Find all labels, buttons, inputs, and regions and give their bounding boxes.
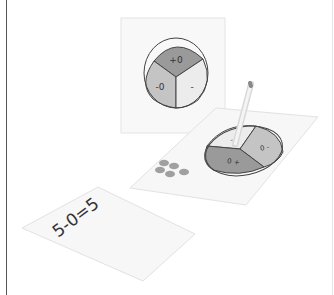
- top-spinner-label-minus-zero: -0: [156, 82, 165, 92]
- middle-spinner-label-zero-minus: 0 -: [259, 143, 270, 153]
- math-spinner-illustration: +0 -0 - - 0 - 0 +: [0, 0, 334, 295]
- top-spinner-label-minus: -: [190, 82, 193, 92]
- top-spinner-label-plus-zero: +0: [169, 55, 183, 65]
- bottom-card: 5-0=5: [22, 187, 195, 281]
- top-spinner: +0 -0 -: [144, 38, 208, 108]
